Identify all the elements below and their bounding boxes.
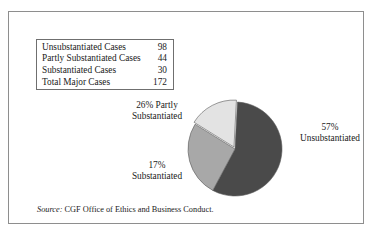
callout-unsubstantiated: 57% Unsubstantiated <box>287 122 373 145</box>
legend-table-grid: Unsubstantiated Cases 98 Partly Substant… <box>42 42 167 89</box>
source-note-label: Source: <box>37 205 63 214</box>
callout-partly-substantiated: 26% Partly Substantiated <box>115 100 199 123</box>
source-note: Source: CGF Office of Ethics and Busines… <box>37 204 214 215</box>
source-note-text: CGF Office of Ethics and Business Conduc… <box>63 205 214 214</box>
legend-label-total: Total Major Cases <box>42 77 152 89</box>
callout-unsubstantiated-line1: 57% <box>321 122 338 132</box>
callout-substantiated-line2: Substantiated <box>117 171 197 182</box>
figure-frame: Unsubstantiated Cases 98 Partly Substant… <box>8 11 364 224</box>
legend-value-total: 172 <box>152 77 168 89</box>
legend-label-substantiated: Substantiated Cases <box>42 65 152 77</box>
callout-partly-line1: 26% Partly <box>136 100 178 110</box>
legend-label-partly-substantiated: Partly Substantiated Cases <box>42 53 152 64</box>
table-row: Unsubstantiated Cases 98 <box>42 42 167 53</box>
legend-data-table: Unsubstantiated Cases 98 Partly Substant… <box>36 39 174 90</box>
table-row: Partly Substantiated Cases 44 <box>42 53 167 64</box>
legend-value-unsubstantiated: 98 <box>152 42 168 53</box>
callout-substantiated: 17% Substantiated <box>117 160 197 183</box>
legend-value-partly-substantiated: 44 <box>152 53 168 64</box>
callout-unsubstantiated-line2: Unsubstantiated <box>287 133 373 144</box>
legend-value-substantiated: 30 <box>152 65 168 77</box>
pie-chart-figure: Unsubstantiated Cases 98 Partly Substant… <box>0 0 374 235</box>
table-row: Substantiated Cases 30 <box>42 65 167 77</box>
callout-partly-line2: Substantiated <box>115 111 199 122</box>
callout-substantiated-line1: 17% <box>148 160 165 170</box>
table-row-total: Total Major Cases 172 <box>42 77 167 89</box>
legend-label-unsubstantiated: Unsubstantiated Cases <box>42 42 152 53</box>
